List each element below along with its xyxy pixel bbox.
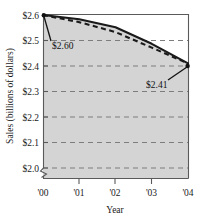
y-tick-label-2-5: $2.5 <box>22 36 39 46</box>
annotation-start-value: $2.60 <box>52 41 74 51</box>
x-tick-label-01: '01 <box>73 188 84 198</box>
x-tick-label-02: '02 <box>109 188 120 198</box>
y-tick-label-2-4: $2.4 <box>22 62 39 72</box>
annotation-end-value: $2.41 <box>146 80 168 90</box>
area-fill-shaded-region <box>43 15 188 178</box>
x-tick-label-04: '04 <box>182 188 193 198</box>
x-tick-label-03: '03 <box>146 188 157 198</box>
x-tick-label-00: '00 <box>37 188 48 198</box>
y-tick-label-2-3: $2.3 <box>22 87 39 97</box>
y-tick-label-2-0: $2.0 <box>22 164 39 174</box>
plot-area <box>43 15 188 178</box>
y-axis-title: Sales (billions of dollars) <box>5 48 16 144</box>
y-tick-labels: $2.6 $2.5 $2.4 $2.3 $2.2 $2.1 $2.0 <box>22 11 39 174</box>
y-tick-label-2-2: $2.2 <box>22 113 39 123</box>
x-tick-labels: '00 '01 '02 '03 '04 <box>37 188 193 198</box>
x-tick-marks <box>79 179 152 185</box>
y-tick-label-2-1: $2.1 <box>22 138 39 148</box>
y-tick-label-2-6: $2.6 <box>22 11 39 21</box>
chart-svg: $2.60 $2.41 $2.6 $2.5 $2.4 $2.3 $2.2 $2.… <box>0 0 205 222</box>
sales-line-chart: $2.60 $2.41 $2.6 $2.5 $2.4 $2.3 $2.2 $2.… <box>0 0 205 222</box>
x-axis-title: Year <box>106 205 124 215</box>
